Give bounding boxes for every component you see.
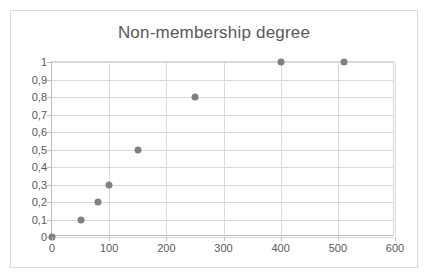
y-axis-tick-labels: 00,10,20,30,40,50,60,70,80,91 <box>11 61 47 237</box>
plot-area <box>51 61 394 236</box>
gridline-horizontal <box>52 80 393 81</box>
gridline-horizontal <box>52 132 393 133</box>
gridline-horizontal <box>52 185 393 186</box>
x-axis-tick-label: 500 <box>318 243 358 254</box>
gridline-vertical <box>395 62 396 235</box>
x-axis-tick <box>109 237 110 241</box>
y-axis-tick-label: 0 <box>13 232 47 243</box>
x-axis-tick-label: 200 <box>146 243 186 254</box>
x-axis-tick-label: 300 <box>204 243 244 254</box>
data-point <box>340 59 347 66</box>
y-axis-tick-label: 0,9 <box>13 74 47 85</box>
gridline-horizontal <box>52 202 393 203</box>
data-point <box>191 94 198 101</box>
x-axis-tick-label: 100 <box>89 243 129 254</box>
chart-frame: Non-membership degree 00,10,20,30,40,50,… <box>10 10 418 268</box>
y-axis-tick-label: 0,4 <box>13 162 47 173</box>
x-axis-tick <box>224 237 225 241</box>
x-axis-tick <box>338 237 339 241</box>
x-axis-tick-labels: 0100200300400500600 <box>52 243 395 259</box>
gridline-vertical <box>109 62 110 235</box>
gridline-vertical <box>281 62 282 235</box>
data-point <box>77 216 84 223</box>
chart-title: Non-membership degree <box>11 23 417 43</box>
gridline-horizontal <box>52 167 393 168</box>
gridline-horizontal <box>52 97 393 98</box>
gridline-vertical <box>166 62 167 235</box>
y-axis-tick-label: 0,6 <box>13 127 47 138</box>
x-axis-tick <box>395 237 396 241</box>
data-point <box>106 181 113 188</box>
data-point <box>277 59 284 66</box>
gridline-horizontal <box>52 150 393 151</box>
y-axis-tick-label: 0,3 <box>13 179 47 190</box>
x-axis-tick <box>52 237 53 241</box>
y-axis-tick-label: 0,5 <box>13 144 47 155</box>
gridline-horizontal <box>52 115 393 116</box>
y-axis-tick-label: 0,8 <box>13 92 47 103</box>
y-axis-tick-label: 0,2 <box>13 197 47 208</box>
y-axis-tick-label: 0,1 <box>13 214 47 225</box>
x-axis-tick-label: 400 <box>261 243 301 254</box>
x-axis-tick <box>281 237 282 241</box>
data-point <box>134 146 141 153</box>
data-point <box>94 199 101 206</box>
gridline-vertical <box>338 62 339 235</box>
x-axis-tick-label: 0 <box>32 243 72 254</box>
x-axis-tick <box>166 237 167 241</box>
gridline-horizontal <box>52 220 393 221</box>
x-axis-tick-label: 600 <box>375 243 415 254</box>
y-axis-tick-label: 0,7 <box>13 109 47 120</box>
y-axis-tick-label: 1 <box>13 57 47 68</box>
gridline-vertical <box>224 62 225 235</box>
